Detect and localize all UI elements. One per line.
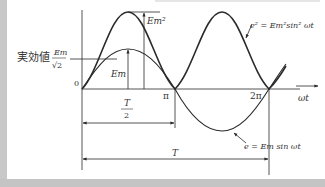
origin-label: 0 <box>74 79 79 88</box>
period-label: T <box>172 148 179 158</box>
pi-label: π <box>163 91 169 101</box>
e-equation: e = Em sin ωt <box>244 142 301 151</box>
em-squared-label: Em² <box>146 16 166 26</box>
two-pi-label: 2π <box>250 91 262 101</box>
em-label: Em <box>110 69 126 79</box>
omega-t-label: ωt <box>298 93 309 103</box>
rms-numerator: Em <box>53 48 68 57</box>
half-period-numerator: T <box>124 98 131 108</box>
rms-denominator: √2 <box>52 61 62 70</box>
sine-rms-diagram: 実効値 Em √2 0 Em² Em π 2π ωt T 2 T e² = Em… <box>0 0 325 187</box>
e-sine-curve <box>82 49 286 131</box>
e-squared-equation: e² = Em²sin² ωt <box>250 21 314 30</box>
half-period-denominator: 2 <box>124 111 129 120</box>
rms-label: 実効値 <box>17 50 50 64</box>
